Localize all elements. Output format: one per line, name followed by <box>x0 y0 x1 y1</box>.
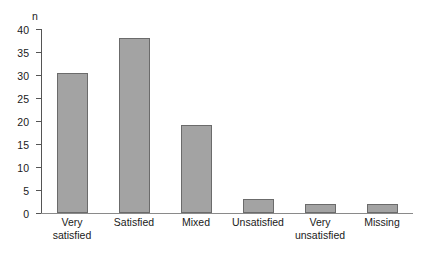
x-axis-category-label: Mixed <box>165 216 227 229</box>
y-axis-tick: 15 <box>36 144 41 145</box>
x-axis-line <box>41 213 413 214</box>
y-axis-tick-label: 10 <box>17 162 29 173</box>
x-axis-category-label: Very satisfied <box>41 216 103 242</box>
y-axis-tick-label: 5 <box>23 185 29 196</box>
y-axis-tick-label: 20 <box>17 116 29 127</box>
y-axis-tick-label: 30 <box>17 70 29 81</box>
y-axis-tick: 40 <box>36 29 41 30</box>
bar <box>305 204 336 213</box>
y-axis-tick: 35 <box>36 52 41 53</box>
y-axis-tick-label: 15 <box>17 139 29 150</box>
y-axis-tick: 20 <box>36 121 41 122</box>
y-axis-tick-label: 35 <box>17 47 29 58</box>
bar <box>181 125 212 213</box>
y-axis-tick-label: 25 <box>17 93 29 104</box>
bar <box>119 38 150 213</box>
y-axis-tick-label: 0 <box>23 208 29 219</box>
x-axis-category-label: Very unsatisfied <box>289 216 351 242</box>
bar <box>243 199 274 213</box>
x-axis-category-label: Missing <box>351 216 413 229</box>
y-axis-tick-label: 40 <box>17 24 29 35</box>
y-axis-tick: 5 <box>36 190 41 191</box>
x-axis-category-label: Satisfied <box>103 216 165 229</box>
y-axis-tick: 25 <box>36 98 41 99</box>
y-axis-tick: 0 <box>36 213 41 214</box>
y-axis-title: n <box>32 11 38 22</box>
plot-area: 0510152025303540 <box>41 29 413 213</box>
x-axis-labels: Very satisfiedSatisfiedMixedUnsatisfiedV… <box>41 216 413 254</box>
bar <box>57 73 88 213</box>
y-axis-tick: 30 <box>36 75 41 76</box>
y-axis-tick: 10 <box>36 167 41 168</box>
bar-chart: n 0510152025303540 Very satisfiedSatisfi… <box>0 0 423 254</box>
bar <box>367 204 398 213</box>
x-axis-category-label: Unsatisfied <box>227 216 289 229</box>
